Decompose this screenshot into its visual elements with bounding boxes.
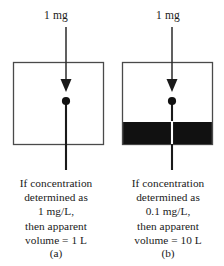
panel-letter-b: (b) bbox=[112, 247, 224, 260]
container-box-a bbox=[14, 63, 104, 145]
caption-b: If concentration determined as 0.1 mg/L,… bbox=[114, 176, 222, 247]
panel-b: 1 mg If concentration determined as 0.1 … bbox=[112, 0, 224, 266]
caption-a-line-3: 1 mg/L, bbox=[2, 204, 110, 218]
caption-a-line-5: volume = 1 L bbox=[2, 233, 110, 247]
caption-b-line-1: If concentration bbox=[114, 176, 222, 190]
caption-a: If concentration determined as 1 mg/L, t… bbox=[2, 176, 110, 247]
caption-b-line-2: determined as bbox=[114, 190, 222, 204]
probe-dot-a bbox=[62, 97, 70, 105]
figure-container: 1 mg If concentration determined as 1 mg… bbox=[0, 0, 224, 266]
caption-a-line-4: then apparent bbox=[2, 219, 110, 233]
panel-a: 1 mg If concentration determined as 1 mg… bbox=[0, 0, 112, 266]
caption-b-line-5: volume = 10 L bbox=[114, 233, 222, 247]
probe-dot-b bbox=[168, 97, 176, 105]
caption-b-line-4: then apparent bbox=[114, 219, 222, 233]
container-fill-b bbox=[123, 122, 212, 144]
caption-b-line-3: 0.1 mg/L, bbox=[114, 204, 222, 218]
panel-letter-a: (a) bbox=[0, 247, 112, 260]
caption-a-line-1: If concentration bbox=[2, 176, 110, 190]
caption-a-line-2: determined as bbox=[2, 190, 110, 204]
